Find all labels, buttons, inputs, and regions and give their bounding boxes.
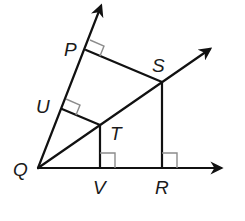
label-Q: Q (13, 159, 28, 180)
label-U: U (36, 96, 50, 117)
label-R: R (155, 177, 169, 198)
label-T: T (110, 123, 123, 144)
right-angle-marker-R (162, 153, 177, 168)
geometry-diagram: P S U T Q V R (0, 0, 245, 221)
segment-PS (86, 50, 162, 82)
diagram-svg: P S U T Q V R (0, 0, 245, 221)
right-angle-marker-V (100, 153, 115, 168)
segment-UT (62, 109, 100, 125)
label-S: S (152, 55, 165, 76)
label-V: V (93, 177, 108, 198)
label-P: P (64, 39, 77, 60)
ray-QP (38, 6, 101, 168)
